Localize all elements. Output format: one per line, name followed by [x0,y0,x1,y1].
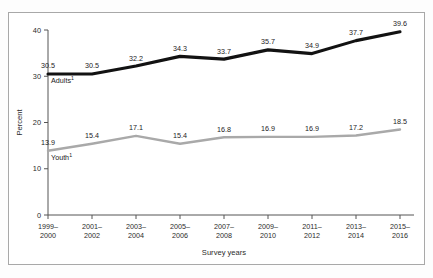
x-tick-label: 2004 [128,231,144,240]
data-label-adults-6: 34.9 [305,41,319,50]
data-label-adults-1: 30.5 [85,61,99,70]
data-label-adults-2: 32.2 [129,54,143,63]
x-tick-label: 2014 [348,231,364,240]
x-tick-label: 2010 [260,231,276,240]
x-tick-label: 2011– [302,222,321,231]
series-label-youth: Youth1 [51,152,72,162]
data-label-youth-3: 15.4 [173,131,187,140]
data-label-youth-8: 18.5 [393,117,407,126]
x-tick-label: 2000 [40,231,56,240]
y-tick-label: 0 [37,211,41,220]
data-label-youth-7: 17.2 [349,123,363,132]
y-tick-label: 20 [33,118,41,127]
data-label-youth-6: 16.9 [305,124,319,133]
data-label-adults-4: 33.7 [217,47,231,56]
data-label-youth-0: 13.9 [41,138,55,147]
x-tick-label: 2013– [346,222,366,231]
data-label-adults-7: 37.7 [349,28,363,37]
figure-container: 010203040Percent1999–20002001–20022003–2… [0,0,433,278]
series-label-adults: Adults1 [51,75,74,85]
x-tick-label: 2005– [170,222,190,231]
y-tick-label: 10 [33,164,41,173]
data-label-youth-2: 17.1 [129,123,143,132]
x-tick-label: 2007– [214,222,234,231]
x-tick-label: 2006 [172,231,188,240]
y-tick-label: 40 [33,26,41,35]
data-label-adults-0: 30.5 [41,61,55,70]
x-tick-label: 2002 [84,231,100,240]
x-tick-label: 2016 [392,231,408,240]
y-tick-label: 30 [33,72,41,81]
x-axis-title: Survey years [202,248,247,257]
data-label-adults-8: 39.6 [393,19,407,28]
data-label-youth-1: 15.4 [85,131,99,140]
data-label-youth-4: 16.8 [217,125,231,134]
x-tick-label: 1999– [38,222,58,231]
x-tick-label: 2009– [258,222,278,231]
data-label-youth-5: 16.9 [261,124,275,133]
x-tick-label: 2003– [126,222,146,231]
x-tick-label: 2001– [82,222,102,231]
x-tick-label: 2012 [304,231,320,240]
y-axis-title: Percent [15,109,24,136]
data-label-adults-3: 34.3 [173,44,187,53]
x-tick-label: 2015– [390,222,410,231]
line-chart: 010203040Percent1999–20002001–20022003–2… [0,0,433,278]
data-label-adults-5: 35.7 [261,37,275,46]
x-tick-label: 2008 [216,231,232,240]
